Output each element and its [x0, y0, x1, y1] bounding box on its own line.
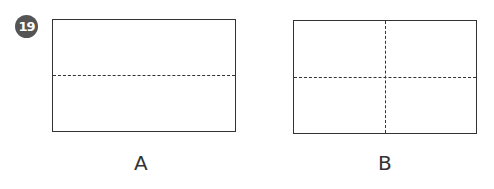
- question-number-badge: 19: [15, 15, 38, 38]
- figure-b-vertical-dashed-line: [385, 21, 386, 133]
- figure-a-label: A: [134, 151, 148, 175]
- figure-b-rectangle: [293, 20, 477, 134]
- figure-b-label: B: [378, 151, 392, 175]
- figure-a-horizontal-dashed-line: [53, 75, 235, 76]
- figure-a-rectangle: [52, 19, 236, 132]
